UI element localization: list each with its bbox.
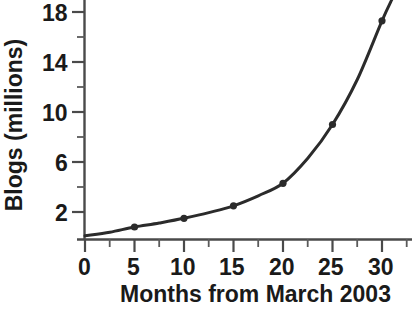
y-tick-label-10: 10 xyxy=(42,102,68,125)
y-tick-label-6: 6 xyxy=(55,152,68,175)
x-tick-label-5: 5 xyxy=(127,256,140,279)
y-tick-label-14: 14 xyxy=(42,52,68,75)
x-tick-label-15: 15 xyxy=(219,256,245,279)
data-point xyxy=(180,215,187,222)
x-major-ticks xyxy=(85,239,382,252)
x-axis-title: Months from March 2003 xyxy=(120,283,391,306)
x-tick-label-10: 10 xyxy=(170,256,196,279)
data-point xyxy=(329,121,336,128)
data-point xyxy=(378,17,385,24)
x-tick-label-0: 0 xyxy=(78,256,91,279)
x-tick-label-25: 25 xyxy=(318,256,344,279)
blogs-growth-chart: Blogs (millions) 18 14 10 6 2 0 5 10 15 … xyxy=(0,0,417,310)
y-axis-title: Blogs (millions) xyxy=(1,39,27,212)
data-point xyxy=(131,223,138,230)
y-tick-label-2: 2 xyxy=(55,202,68,225)
data-point xyxy=(279,180,286,187)
x-tick-label-20: 20 xyxy=(269,256,295,279)
y-major-ticks xyxy=(72,12,85,212)
data-point-markers xyxy=(131,17,386,230)
data-point xyxy=(230,202,237,209)
blogs-trend-line xyxy=(85,0,392,236)
x-tick-label-30: 30 xyxy=(368,256,394,279)
y-tick-label-18: 18 xyxy=(42,2,68,25)
